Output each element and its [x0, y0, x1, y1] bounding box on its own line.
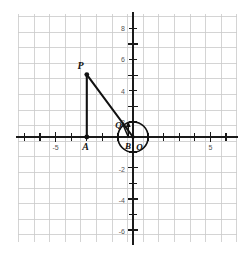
coordinate-plane-figure: -5 5 8 6 4 2 -2 -4 -6 P A Q B O — [0, 0, 249, 256]
y-tick-label-neg6: -6 — [119, 228, 125, 235]
x-tick-label-pos5: 5 — [208, 144, 212, 151]
label-B: B — [124, 141, 131, 151]
point-A — [84, 135, 89, 140]
label-Q: Q — [115, 120, 122, 130]
y-tick-label-neg2: -2 — [119, 166, 125, 173]
y-tick-label-neg4: -4 — [119, 197, 125, 204]
point-P — [84, 72, 89, 77]
y-tick-label-8: 8 — [121, 25, 125, 32]
point-O — [131, 135, 135, 139]
graph-canvas: -5 5 8 6 4 2 -2 -4 -6 P A Q B O — [0, 0, 249, 256]
label-O: O — [136, 142, 143, 152]
y-tick-label-4: 4 — [121, 88, 125, 95]
label-A: A — [81, 141, 89, 152]
x-tick-label-neg5: -5 — [52, 144, 58, 151]
y-tick-label-6: 6 — [121, 56, 125, 63]
label-P: P — [77, 60, 84, 71]
